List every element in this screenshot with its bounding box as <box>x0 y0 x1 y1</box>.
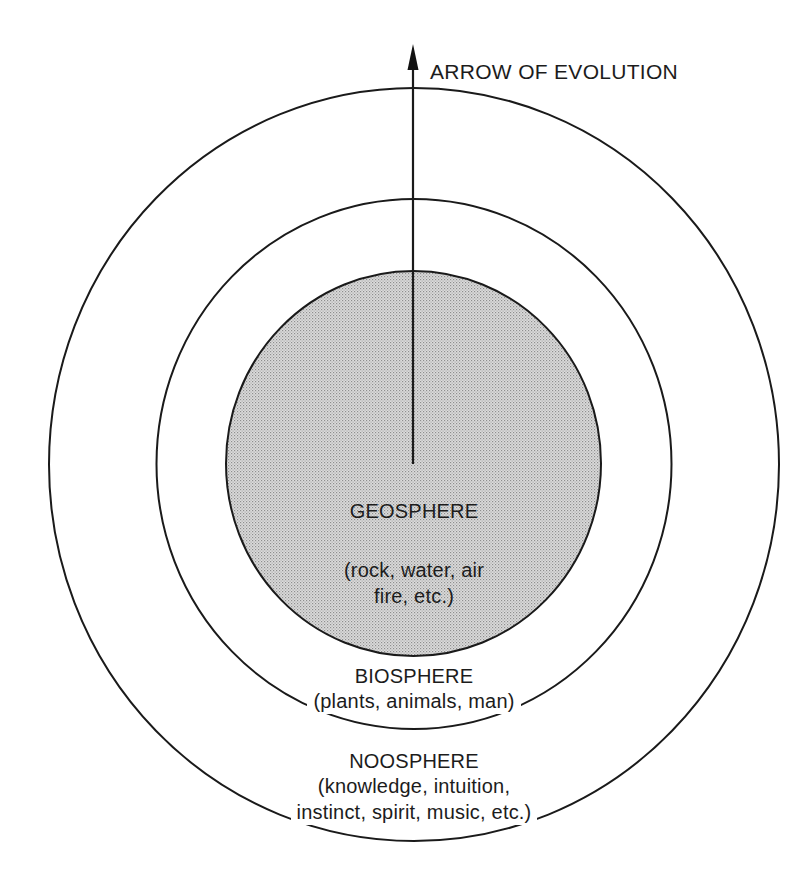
biosphere-title: BIOSPHERE <box>351 664 478 688</box>
noosphere-description-line2: instinct, spirit, music, etc.) <box>291 799 538 825</box>
geosphere-title: GEOSPHERE <box>264 500 564 523</box>
noosphere-description-line1: (knowledge, intuition, <box>214 773 614 799</box>
geosphere-description-line2: fire, etc.) <box>264 583 564 609</box>
biosphere-label: BIOSPHERE (plants, animals, man) <box>264 664 564 714</box>
geosphere-description: (rock, water, air fire, etc.) <box>264 557 564 609</box>
geosphere-description-line1: (rock, water, air <box>264 557 564 583</box>
arrow-of-evolution-label: ARROW OF EVOLUTION <box>430 60 678 84</box>
biosphere-description: (plants, animals, man) <box>307 688 520 714</box>
evolution-arrow-head-icon <box>408 44 419 70</box>
noosphere-title: NOOSPHERE <box>214 749 614 773</box>
noosphere-label: NOOSPHERE (knowledge, intuition, instinc… <box>214 749 614 825</box>
